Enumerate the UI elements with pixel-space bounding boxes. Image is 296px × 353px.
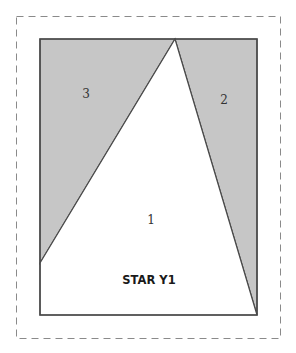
piece-2-label: 2 bbox=[220, 93, 228, 107]
block-title: STAR Y1 bbox=[122, 273, 175, 287]
piece-1-label: 1 bbox=[147, 213, 155, 227]
piece-3-label: 3 bbox=[82, 87, 90, 101]
foundation-piecing-diagram: 3 2 1 STAR Y1 bbox=[0, 0, 296, 353]
